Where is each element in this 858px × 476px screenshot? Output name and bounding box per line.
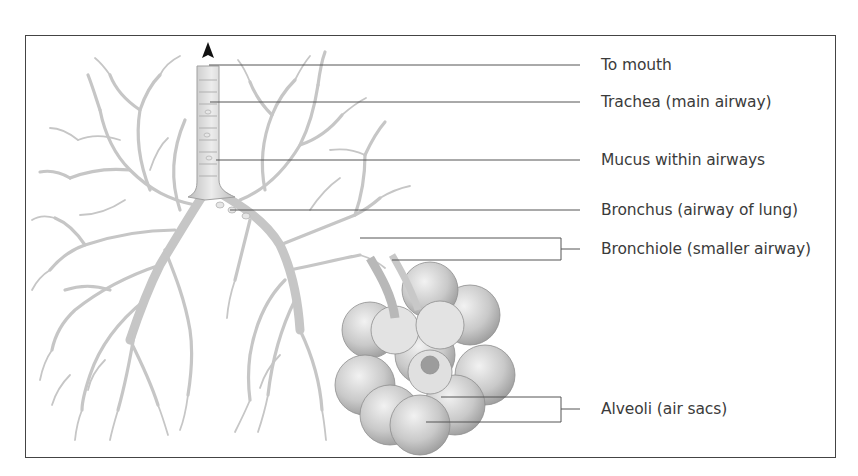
arrow-up-icon bbox=[202, 42, 214, 58]
leader-lines bbox=[209, 65, 580, 422]
label-to-mouth: To mouth bbox=[601, 56, 672, 74]
label-alveoli: Alveoli (air sacs) bbox=[601, 400, 727, 418]
label-bronchus: Bronchus (airway of lung) bbox=[601, 201, 798, 219]
trachea-shape bbox=[188, 66, 250, 219]
lung-illustration bbox=[0, 0, 858, 476]
label-bronchiole: Bronchiole (smaller airway) bbox=[601, 240, 811, 258]
label-mucus: Mucus within airways bbox=[601, 151, 765, 169]
label-trachea: Trachea (main airway) bbox=[601, 93, 772, 111]
alveoli-cluster bbox=[335, 255, 515, 455]
